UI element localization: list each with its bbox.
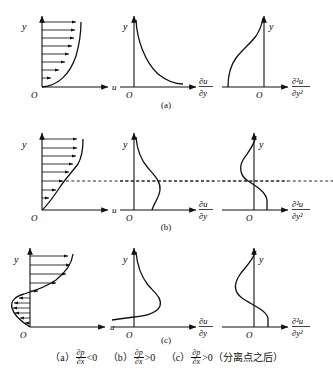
axis-label-y: y <box>268 21 274 32</box>
velocity-arrows <box>42 139 77 198</box>
origin-label: O <box>256 90 263 100</box>
axis-label-y: y <box>21 21 27 32</box>
caption-a-denominator: ∂x <box>76 358 86 366</box>
caption-a-prefix: （a） <box>50 352 74 363</box>
axis-label-u: u <box>112 205 117 215</box>
panel-c3-second-derivative: y O ∂²u ∂y² <box>222 248 310 340</box>
reverse-flow-arrows <box>13 298 30 323</box>
axis-label-dudy: ∂u ∂y <box>199 316 213 338</box>
origin-label: O <box>126 90 133 100</box>
panel-b2-first-derivative: y O ∂u ∂y <box>120 133 214 223</box>
origin-label: O <box>246 213 253 223</box>
axis-label-y: y <box>122 254 128 265</box>
row-label-b: (b) <box>146 222 186 232</box>
figure-caption: （a）∂p∂x<0 （b）∂p∂x>0 （c）∂p∂x>0（分离点之后） <box>0 349 333 368</box>
axis-label-dudy: ∂u ∂y <box>199 199 213 221</box>
profile-curve <box>42 139 83 210</box>
caption-b-prefix: （b） <box>108 352 133 363</box>
axis-label-d2udy2: ∂²u ∂y² <box>292 76 310 98</box>
svg-text:∂²u: ∂²u <box>292 76 303 86</box>
boundary-layer-figure: y O u y O ∂u ∂y y O ∂²u <box>0 0 333 377</box>
svg-text:∂²u: ∂²u <box>292 316 303 326</box>
origin-label: O <box>126 213 133 223</box>
svg-text:∂u: ∂u <box>199 76 207 86</box>
svg-text:∂y: ∂y <box>199 88 207 98</box>
panel-b3-second-derivative: y O ∂²u ∂y² <box>222 133 310 223</box>
caption-item-b: （b）∂p∂x>0 <box>108 349 156 368</box>
origin-label: O <box>31 213 38 223</box>
derivative-curve <box>136 137 160 210</box>
svg-text:∂y²: ∂y² <box>292 88 303 98</box>
svg-text:∂y²: ∂y² <box>292 211 303 221</box>
derivative-curve <box>136 20 183 84</box>
origin-label: O <box>126 330 133 340</box>
axis-label-d2udy2: ∂²u ∂y² <box>292 316 310 338</box>
panel-c1-velocity-profile: y O u <box>12 248 115 340</box>
axis-label-y: y <box>122 139 128 150</box>
panel-c2-first-derivative: y O ∂u ∂y <box>112 248 213 340</box>
caption-b-denominator: ∂x <box>134 358 144 366</box>
axis-label-y: y <box>258 254 264 265</box>
origin-label: O <box>20 330 27 340</box>
caption-c-denominator: ∂x <box>191 358 201 366</box>
axis-label-u: u <box>112 82 117 92</box>
derivative-curve <box>228 18 263 87</box>
axis-label-dudy: ∂u ∂y <box>199 76 213 98</box>
panel-a2-first-derivative: y O ∂u ∂y <box>120 16 213 100</box>
caption-c-note: （分离点之后） <box>213 352 283 363</box>
caption-c-fraction: ∂p∂x <box>191 349 201 367</box>
velocity-arrows <box>42 22 76 78</box>
svg-text:∂²u: ∂²u <box>292 199 303 209</box>
caption-item-a: （a）∂p∂x<0 <box>50 349 97 368</box>
caption-c-relation: >0 <box>202 352 213 363</box>
svg-text:∂u: ∂u <box>199 199 207 209</box>
origin-label: O <box>31 90 38 100</box>
caption-a-fraction: ∂p∂x <box>76 349 86 367</box>
svg-text:∂y: ∂y <box>199 328 207 338</box>
caption-b-relation: >0 <box>145 352 156 363</box>
axis-label-y: y <box>21 139 27 150</box>
origin-label: O <box>246 330 253 340</box>
row-label-c: (c) <box>146 335 186 345</box>
velocity-arrows-forward <box>30 256 70 291</box>
panel-a1-velocity-profile: y O u <box>21 16 117 100</box>
row-label-a: (a) <box>146 100 186 110</box>
derivative-curve <box>112 252 160 320</box>
panel-a3-second-derivative: y O ∂²u ∂y² <box>222 16 310 100</box>
svg-text:∂y: ∂y <box>199 211 207 221</box>
svg-text:∂u: ∂u <box>199 316 207 326</box>
caption-item-c: （c）∂p∂x>0（分离点之后） <box>166 349 283 368</box>
caption-a-relation: <0 <box>87 352 98 363</box>
profile-curve <box>42 22 81 87</box>
caption-c-prefix: （c） <box>166 352 190 363</box>
axis-label-y: y <box>258 139 264 150</box>
axis-label-y: y <box>13 254 19 265</box>
svg-text:∂y²: ∂y² <box>292 328 303 338</box>
axis-label-y: y <box>122 21 128 32</box>
axis-label-d2udy2: ∂²u ∂y² <box>292 199 310 221</box>
caption-b-fraction: ∂p∂x <box>134 349 144 367</box>
